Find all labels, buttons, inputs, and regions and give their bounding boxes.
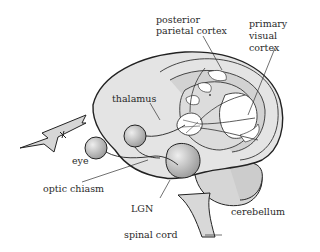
label-posterior-parietal-cortex-line2: parietal cortex [156,25,227,36]
label-posterior-parietal-cortex-line1: posterior [156,14,200,25]
label-spinal-cord: spinal cord [124,229,178,240]
arrow-stimulus-icon [20,115,86,152]
label-optic-chiasm: optic chiasm [43,183,104,194]
label-eye: eye [72,155,89,166]
label-primary-visual-cortex-line1: primary [249,18,287,29]
label-primary-visual-cortex-line3: cortex [249,42,279,53]
lgn-shape [124,125,146,147]
label-cerebellum: cerebellum [231,206,285,217]
label-primary-visual-cortex-line2: visual [249,30,277,41]
label-thalamus: thalamus [112,93,156,104]
label-lgn: LGN [131,203,153,214]
spinal-cord-shape [178,193,215,237]
